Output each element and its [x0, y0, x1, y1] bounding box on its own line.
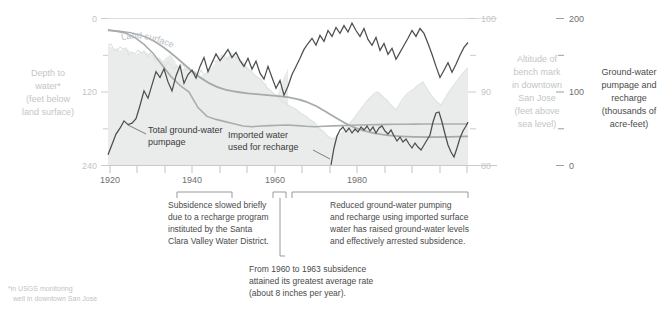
note-subsidence-slowed: Subsidence slowed briefly due to a recha… — [168, 200, 269, 246]
bracket-note-c-stem — [280, 198, 285, 256]
x-tick-1960: 1960 — [265, 175, 285, 185]
right-axis-title-line2: pumpage and — [601, 80, 656, 90]
note-b-line4: and effectively arrested subsidence. — [330, 236, 465, 246]
x-tick-1920: 1920 — [100, 175, 120, 185]
note-a-line1: Subsidence slowed briefly — [168, 200, 267, 210]
imported-label-line2: used for recharge — [228, 142, 299, 152]
subsidence-chart: 0 120 240 100 90 80 200 100 0 1920 1940 … — [0, 0, 672, 322]
imported-label-line1: Imported water — [228, 130, 288, 140]
left-tick-120: 120 — [82, 87, 97, 97]
mid-tick-90: 90 — [481, 87, 491, 97]
x-axis-ticks — [110, 166, 467, 174]
note-a-line2: due to a recharge program — [168, 212, 269, 222]
left-tick-0: 0 — [92, 14, 97, 24]
mid-axis-title-line5: (feet above — [514, 106, 559, 116]
right-axis-title-line1: Ground-water — [601, 67, 656, 77]
mid-axis-title-line2: bench mark — [513, 67, 561, 77]
mid-axis-ticks — [468, 19, 476, 166]
chart-container: 0 120 240 100 90 80 200 100 0 1920 1940 … — [0, 0, 672, 322]
note-c-line2: attained its greatest average rate — [249, 276, 374, 286]
pumpage-label-line2: pumpage — [148, 137, 186, 147]
pumpage-label-line1: Total ground-water — [148, 125, 223, 135]
note-c-line3: (about 8 inches per year). — [249, 288, 346, 298]
land-surface-label-text: Land surface — [120, 30, 175, 50]
mid-tick-80: 80 — [481, 161, 491, 171]
note-b-line2: and recharge using imported surface — [330, 212, 469, 222]
right-axis-title-line4: (thousands of — [602, 106, 657, 116]
bracket-note-b — [292, 192, 468, 198]
mid-axis-title-line3: in downtown — [512, 80, 562, 90]
footnote-line1: *in USGS monitoring — [8, 285, 73, 293]
note-a-line4: Clara Valley Water District. — [168, 236, 269, 246]
right-axis-title-line3: recharge — [611, 93, 647, 103]
bracket-note-c — [273, 192, 286, 198]
mid-axis-title: Altitude of bench mark in downtown San J… — [512, 54, 562, 129]
left-axis-title-line3: (feet below — [26, 94, 71, 104]
note-a-line3: instituted by the Santa — [168, 224, 252, 234]
bracket-note-a — [177, 192, 232, 198]
x-tick-1980: 1980 — [347, 175, 367, 185]
note-reduced-pumping: Reduced ground-water pumping and recharg… — [329, 200, 469, 246]
note-greatest-rate: From 1960 to 1963 subsidence attained it… — [249, 264, 374, 298]
land-surface-label: Land surface — [120, 30, 175, 50]
mid-axis-title-line6: sea level) — [518, 119, 557, 129]
right-tick-100: 100 — [569, 87, 584, 97]
left-axis-title-line1: Depth to — [31, 68, 65, 78]
left-axis-ticks — [101, 19, 108, 166]
mid-axis-title-line4: San Jose — [518, 93, 556, 103]
note-b-line3: water has raised ground-water levels — [329, 224, 469, 234]
x-tick-1940: 1940 — [182, 175, 202, 185]
right-tick-0: 0 — [569, 161, 574, 171]
left-axis-title-line2: water* — [34, 81, 61, 91]
note-b-line1: Reduced ground-water pumping — [330, 200, 452, 210]
left-axis-title: Depth to water* (feet below land surface… — [22, 68, 74, 117]
mid-axis-title-line1: Altitude of — [517, 54, 558, 64]
footnote-line2: well in downtown San Jose — [12, 295, 97, 302]
left-axis-title-line4: land surface) — [22, 107, 74, 117]
right-axis-title-line5: acre-feet) — [610, 119, 649, 129]
footnote: *in USGS monitoring well in downtown San… — [8, 285, 97, 302]
mid-tick-100: 100 — [481, 14, 496, 24]
right-axis-title: Ground-water pumpage and recharge (thous… — [601, 67, 656, 129]
left-tick-240: 240 — [82, 161, 97, 171]
right-tick-200: 200 — [569, 14, 584, 24]
note-c-line1: From 1960 to 1963 subsidence — [249, 264, 366, 274]
right-axis-ticks — [556, 19, 564, 166]
